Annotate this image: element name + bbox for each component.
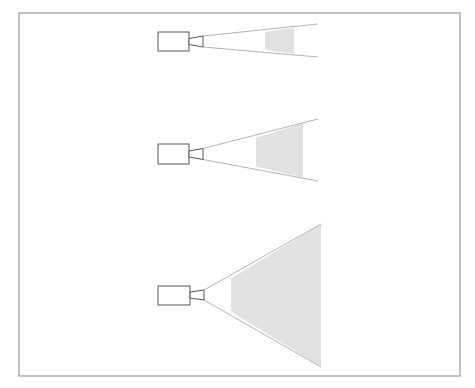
field-of-view-shaded-region <box>265 28 294 54</box>
camera-panels <box>158 24 321 367</box>
camera-body-icon <box>158 144 189 164</box>
camera-body-icon <box>158 32 189 51</box>
camera-lens-icon <box>190 290 204 300</box>
camera-1-narrow <box>158 24 318 57</box>
camera-field-of-view-diagram <box>0 0 475 388</box>
diagram-frame <box>19 13 460 376</box>
camera-2-medium <box>158 119 318 181</box>
field-of-view-shaded-region <box>231 224 321 367</box>
lower-view-ray <box>203 47 318 57</box>
camera-body-icon <box>158 286 190 305</box>
camera-3-wide <box>158 224 321 367</box>
upper-view-ray <box>203 24 318 36</box>
field-of-view-shaded-region <box>256 124 303 178</box>
camera-lens-icon <box>189 149 203 160</box>
camera-lens-icon <box>189 36 203 47</box>
